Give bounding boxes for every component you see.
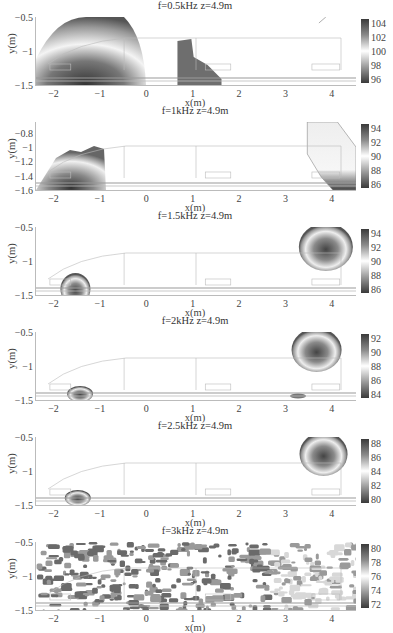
y-tick-label: −1.2 (15, 156, 33, 167)
y-tick-label: −1.5 (15, 80, 33, 91)
colorbar-tick-label: 90 (371, 256, 381, 267)
colorbar (361, 124, 369, 188)
y-tick-label: −1 (22, 466, 33, 477)
colorbar-tick-label: 74 (371, 585, 381, 596)
heatmap-plot-area (35, 122, 356, 191)
y-tick-label: −1 (22, 571, 33, 582)
y-tick-label: −1 (22, 256, 33, 267)
y-tick-label: −0.5 (15, 432, 33, 443)
y-tick-label: −1.6 (15, 185, 33, 196)
colorbar-tick-label: 92 (371, 242, 381, 253)
subplot-2: f=1kHz z=4.9m y(m) −0.8−1−1.2−1.4−1.6−2−… (0, 105, 393, 210)
colorbar-tick-label: 72 (371, 599, 381, 610)
y-tick-label: −0.5 (15, 222, 33, 233)
heatmap-svg (36, 17, 356, 85)
colorbar-tick-label: 100 (371, 46, 386, 57)
colorbar (361, 334, 369, 398)
y-axis-label: y(m) (6, 449, 17, 479)
colorbar-tick-label: 86 (371, 284, 381, 295)
y-tick-label: −0.5 (15, 327, 33, 338)
heatmap-plot-area (35, 227, 356, 296)
colorbar-tick-label: 88 (371, 165, 381, 176)
colorbar-tick-label: 88 (371, 361, 381, 372)
colorbar (361, 439, 369, 503)
subplot-title: f=2kHz z=4.9m (35, 315, 355, 326)
heatmap-plot-area (35, 437, 356, 506)
y-axis-label: y(m) (6, 554, 17, 584)
colorbar-tick-label: 84 (371, 466, 381, 477)
y-axis-label: y(m) (6, 239, 17, 269)
colorbar-tick-label: 88 (371, 270, 381, 281)
colorbar-tick-label: 86 (371, 179, 381, 190)
colorbar-tick-label: 96 (371, 74, 381, 85)
colorbar-tick-label: 80 (371, 494, 381, 505)
colorbar-tick-label: 92 (371, 137, 381, 148)
colorbar-tick-label: 76 (371, 571, 381, 582)
heatmap-svg (36, 332, 356, 400)
subplot-4: f=2kHz z=4.9m y(m) −0.5−1−1.5−2−101234x(… (0, 315, 393, 420)
y-axis-label: y(m) (6, 344, 17, 374)
heatmap-svg (36, 437, 356, 505)
colorbar-tick-label: 78 (371, 557, 381, 568)
x-axis-label: x(m) (35, 622, 355, 633)
heatmap-plot-area (35, 542, 356, 611)
subplot-3: f=1.5kHz z=4.9m y(m) −0.5−1−1.5−2−101234… (0, 210, 393, 315)
heatmap-svg (36, 122, 356, 190)
subplot-6: f=3kHz z=4.9m y(m) −0.5−1−1.5−2−101234x(… (0, 525, 393, 630)
y-tick-label: −1 (22, 361, 33, 372)
heatmap-plot-area (35, 17, 356, 86)
subplot-title: f=3kHz z=4.9m (35, 525, 355, 536)
y-tick-label: −1 (22, 46, 33, 57)
colorbar-tick-label: 90 (371, 151, 381, 162)
colorbar-tick-label: 86 (371, 375, 381, 386)
colorbar-tick-label: 90 (371, 347, 381, 358)
colorbar (361, 229, 369, 293)
colorbar (361, 19, 369, 83)
colorbar-tick-label: 102 (371, 32, 386, 43)
y-tick-label: −1.4 (15, 170, 33, 181)
y-tick-label: −0.5 (15, 12, 33, 23)
colorbar-tick-label: 82 (371, 480, 381, 491)
subplot-5: f=2.5kHz z=4.9m y(m) −0.5−1−1.5−2−101234… (0, 420, 393, 525)
colorbar-tick-label: 84 (371, 389, 381, 400)
heatmap-svg (36, 542, 356, 610)
subplot-title: f=1.5kHz z=4.9m (35, 210, 355, 221)
subplot-title: f=2.5kHz z=4.9m (35, 420, 355, 431)
colorbar-tick-label: 104 (371, 18, 386, 29)
y-tick-label: −1.5 (15, 290, 33, 301)
subplot-title: f=1kHz z=4.9m (35, 105, 355, 116)
y-axis-label: y(m) (6, 29, 17, 59)
colorbar-tick-label: 80 (371, 543, 381, 554)
y-tick-label: −1.5 (15, 605, 33, 616)
y-tick-label: −0.8 (15, 127, 33, 138)
y-tick-label: −1.5 (15, 395, 33, 406)
colorbar-tick-label: 92 (371, 333, 381, 344)
colorbar (361, 544, 369, 608)
colorbar-tick-label: 98 (371, 60, 381, 71)
colorbar-tick-label: 88 (371, 438, 381, 449)
colorbar-tick-label: 94 (371, 123, 381, 134)
heatmap-svg (36, 227, 356, 295)
y-tick-label: −0.5 (15, 537, 33, 548)
colorbar-tick-label: 94 (371, 228, 381, 239)
subplot-1: f=0.5kHz z=4.9m y(m) −0.5−1−1.5−2−101234… (0, 0, 393, 105)
y-tick-label: −1.5 (15, 500, 33, 511)
y-tick-label: −1 (22, 142, 33, 153)
subplot-title: f=0.5kHz z=4.9m (35, 0, 355, 11)
heatmap-plot-area (35, 332, 356, 401)
colorbar-tick-label: 86 (371, 452, 381, 463)
